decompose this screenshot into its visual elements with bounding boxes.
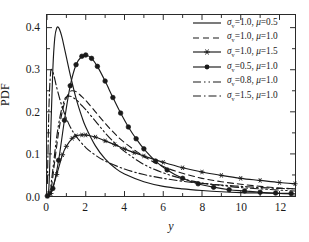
data-point-marker [273, 191, 278, 196]
legend-label: σv=1.0, μ=1.5 [227, 47, 278, 58]
data-point-marker [142, 147, 147, 152]
data-point-marker [83, 53, 88, 58]
data-point-marker [74, 62, 79, 67]
data-point-marker [89, 56, 94, 61]
y-tick-label: 0.1 [12, 148, 40, 160]
x-tick-label: 10 [236, 201, 248, 213]
data-point-marker [165, 168, 170, 173]
legend-line-sample [192, 46, 222, 58]
legend-label: σv=0.5, μ=1.0 [227, 62, 278, 73]
data-point-marker [153, 159, 158, 164]
legend-item[interactable]: σv=1.0, μ=0.5 [192, 16, 304, 31]
x-tick-label: 12 [275, 201, 287, 213]
data-point-marker [56, 158, 61, 163]
data-point-marker [211, 185, 216, 190]
legend-item[interactable]: σv=1.0, μ=1.5 [192, 45, 304, 60]
legend-label: σv=1.5, μ=1.0 [227, 91, 278, 102]
x-tick-label: 4 [121, 201, 127, 213]
legend-label: σv=1.0, μ=0.5 [227, 18, 278, 29]
data-point-marker [95, 64, 100, 69]
data-point-marker [242, 189, 247, 194]
legend-line-sample [192, 90, 222, 102]
legend: σv=1.0, μ=0.5σv=1.0, μ=1.0σv=1.0, μ=1.5σ… [192, 16, 304, 104]
x-tick-label: 0 [43, 201, 49, 213]
series-curve [45, 133, 298, 198]
data-point-marker [118, 111, 123, 116]
legend-line-sample [192, 61, 222, 73]
data-point-marker [111, 95, 116, 100]
x-tick-label: 6 [160, 201, 166, 213]
x-axis-title: y [168, 219, 173, 234]
data-point-marker [134, 136, 139, 141]
y-tick-label: 0.2 [12, 106, 40, 118]
x-tick-label: 2 [82, 201, 88, 213]
data-point-marker [68, 83, 73, 88]
data-point-marker [126, 125, 131, 130]
legend-item[interactable]: σv=1.5, μ=1.0 [192, 89, 304, 104]
y-tick-label: 0.3 [12, 63, 40, 75]
x-tick-label: 8 [199, 201, 205, 213]
legend-item[interactable]: σv=0.8, μ=1.0 [192, 74, 304, 89]
legend-item[interactable]: σv=1.0, μ=1.0 [192, 31, 304, 46]
y-axis-title: PDF [0, 83, 13, 106]
data-point-marker [51, 186, 56, 191]
data-point-marker [258, 190, 263, 195]
y-tick-label: 0.0 [12, 191, 40, 203]
pdf-line-chart: PDF y 0.00.10.20.30.4 024681012 σv=1.0, … [0, 0, 309, 242]
data-point-marker [289, 191, 294, 196]
legend-item[interactable]: σv=0.5, μ=1.0 [192, 60, 304, 75]
data-point-marker [103, 79, 108, 84]
legend-line-sample [192, 17, 222, 29]
legend-label: σv=0.8, μ=1.0 [227, 76, 278, 87]
data-point-marker [227, 187, 232, 192]
legend-line-sample [192, 32, 222, 44]
legend-label: σv=1.0, μ=1.0 [227, 32, 278, 43]
legend-line-sample [192, 76, 222, 88]
y-tick-label: 0.4 [12, 21, 40, 33]
